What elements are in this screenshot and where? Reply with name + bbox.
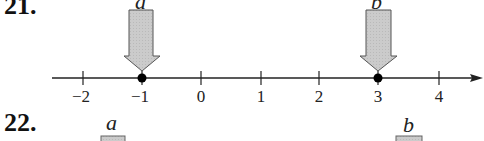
tick-label: −2 <box>72 88 90 105</box>
down-arrow-icon-b <box>360 10 397 71</box>
bar-label-b: b <box>403 114 414 136</box>
tick-label: 3 <box>374 88 383 105</box>
bar-label-a: a <box>106 112 117 134</box>
problem-number-22: 22. <box>4 110 37 136</box>
point-a-dot <box>138 74 147 83</box>
tick-label: −1 <box>131 88 149 105</box>
tick-label: 0 <box>197 88 206 105</box>
down-arrow-icon-a <box>124 10 160 71</box>
tick-label: 2 <box>315 88 324 105</box>
point-b-dot <box>374 74 383 83</box>
bar-a-top <box>101 136 125 141</box>
tick-label: 4 <box>435 88 444 105</box>
tick-label: 1 <box>257 88 266 105</box>
